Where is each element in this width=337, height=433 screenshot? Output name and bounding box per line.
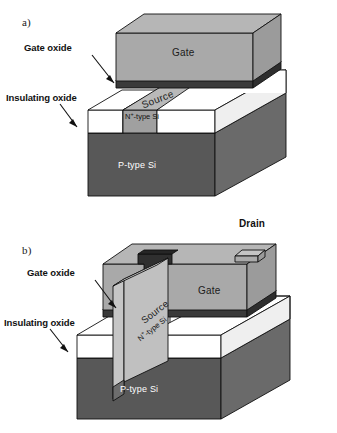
panel-a-planar-mosfet: a): [0, 0, 337, 215]
callout-insulating-oxide-a: Insulating oxide: [6, 92, 77, 103]
callout-gate-oxide-b: Gate oxide: [27, 267, 75, 278]
semiconductor-device-figure: a): [0, 0, 337, 433]
panel-b-finfet: b): [0, 212, 337, 433]
callout-insulating-oxide-b: Insulating oxide: [4, 317, 75, 328]
panel-a-callout-lines: [0, 0, 337, 215]
callout-gate-oxide-a: Gate oxide: [24, 42, 72, 53]
